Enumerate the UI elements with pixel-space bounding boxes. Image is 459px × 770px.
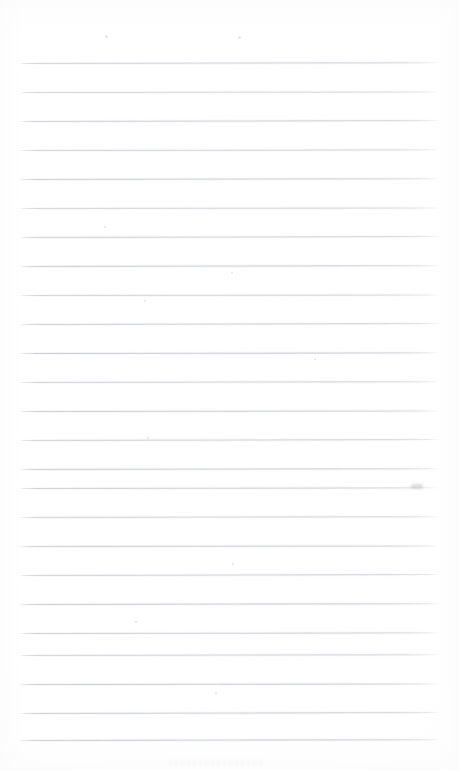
scan-speck	[232, 563, 234, 565]
ruled-line	[19, 381, 440, 383]
scan-speck	[144, 300, 146, 302]
ruled-line	[19, 632, 440, 634]
ruled-line	[19, 178, 440, 180]
ruled-line	[19, 516, 440, 518]
scan-speck	[314, 358, 316, 360]
ruled-line	[19, 352, 440, 354]
ruled-line	[19, 62, 440, 64]
ruled-line	[19, 120, 440, 122]
ruled-line	[19, 294, 440, 296]
ruled-line	[19, 439, 440, 441]
ruled-line	[19, 410, 440, 412]
ruled-line	[19, 236, 440, 238]
scan-speck	[231, 272, 233, 274]
ruled-line	[19, 207, 440, 209]
ruled-line	[19, 487, 440, 489]
ruled-line	[19, 265, 440, 267]
ruled-line	[19, 654, 440, 656]
ruled-line	[19, 574, 440, 576]
scanned-page	[0, 0, 459, 770]
scan-speck	[135, 621, 137, 623]
ruled-line	[19, 149, 440, 151]
ruled-line	[19, 545, 440, 547]
scan-speck	[104, 226, 106, 228]
scan-speck	[147, 437, 149, 439]
ruled-line	[19, 323, 440, 325]
ruled-lines-layer	[0, 0, 459, 770]
scan-speck	[238, 36, 241, 39]
scan-smudge	[411, 484, 423, 489]
scan-speck	[215, 692, 217, 694]
ruled-line	[19, 739, 440, 741]
ruled-line	[19, 712, 440, 714]
ruled-line	[19, 683, 440, 685]
ruled-line	[19, 603, 440, 605]
ruled-line	[19, 468, 440, 470]
ruled-line	[19, 91, 440, 93]
scan-speck	[105, 35, 108, 38]
